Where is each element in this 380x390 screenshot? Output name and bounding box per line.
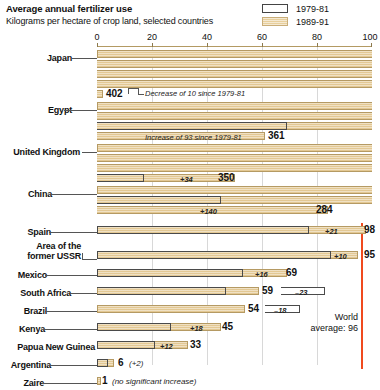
- bar-ussr-1979-81: [97, 251, 331, 259]
- row-label-united-kingdom: United Kingdom: [13, 147, 80, 157]
- value-china: 284: [316, 204, 333, 215]
- row-papua-new-guinea: Papua New Guinea +12 33: [0, 340, 380, 356]
- row-egypt: Egypt Increase of 93 since 1979-81 361: [0, 99, 380, 139]
- bar-egypt-1989-91-seg2: [97, 112, 372, 120]
- delta-south-africa: –23: [295, 288, 308, 297]
- legend-item-1989-91: 1989-91: [262, 15, 374, 28]
- row-label-south-africa: South Africa: [20, 288, 71, 298]
- plot-area: World average: 96 Japan 402 Decrease of …: [0, 47, 380, 377]
- row-label-ussr-line1: Area of the: [36, 241, 81, 251]
- row-argentina: Argentina 6 (+2): [0, 358, 380, 374]
- value-kenya: 45: [222, 321, 233, 332]
- row-south-africa: South Africa 59 –23: [0, 286, 380, 302]
- value-papua-new-guinea: 33: [190, 339, 201, 350]
- bar-mexico-1979-81: [97, 269, 243, 277]
- bar-egypt-1989-91-seg1: [97, 102, 372, 110]
- row-label-mexico: Mexico: [18, 270, 47, 280]
- legend: 1979-81 1989-91: [262, 2, 374, 28]
- note-japan: Decrease of 10 since 1979-81: [145, 89, 245, 98]
- row-label-papua-new-guinea: Papua New Guinea: [17, 342, 95, 352]
- x-tick-label-100: 100: [362, 32, 377, 42]
- x-tick-label-80: 80: [312, 32, 322, 42]
- legend-item-1979-81: 1979-81: [262, 2, 374, 15]
- note-zaire: (no significant increase): [112, 377, 196, 386]
- bar-argentina-1979-81: [97, 359, 108, 367]
- row-label-zaire: Zaire: [23, 378, 44, 388]
- row-united-kingdom: United Kingdom +34 350: [0, 141, 380, 181]
- bar-south-africa-1979-81-part: [97, 287, 226, 295]
- row-label-china: China: [28, 189, 52, 199]
- bar-png-1979-81: [97, 341, 155, 349]
- bar-japan-1989-91-seg2: [97, 60, 372, 68]
- row-label-brazil: Brazil: [24, 306, 47, 316]
- row-label-ussr-line2: former USSR: [27, 251, 81, 261]
- row-area-of-the-former-ussr: Area of the former USSR +10 95: [0, 243, 380, 267]
- value-egypt: 361: [268, 130, 285, 141]
- delta-ussr: +10: [334, 252, 347, 261]
- legend-swatch-filled-icon: [262, 17, 288, 26]
- delta-china: +140: [200, 207, 217, 216]
- x-tick-label-20: 20: [147, 32, 157, 42]
- value-south-africa: 59: [262, 285, 273, 296]
- row-zaire: Zaire 1 (no significant increase): [0, 376, 380, 390]
- x-tick-label-60: 60: [257, 32, 267, 42]
- row-mexico: Mexico +16 69: [0, 268, 380, 284]
- row-label-japan: Japan: [47, 53, 72, 63]
- row-japan: Japan 402 Decrease of 10 since 1979-81: [0, 47, 380, 97]
- bar-japan-1989-91-seg4: [97, 80, 372, 88]
- legend-swatch-outline-icon: [262, 4, 288, 13]
- delta-brazil: –18: [274, 306, 287, 315]
- value-spain: 98: [364, 224, 375, 235]
- value-brazil: 54: [248, 303, 259, 314]
- bar-china-1989-91-seg1: [97, 186, 372, 194]
- bar-japan-1989-91-seg1: [97, 50, 372, 58]
- row-kenya: Kenya +18 45: [0, 322, 380, 338]
- row-spain: Spain +21 98: [0, 225, 380, 241]
- bar-uk-1989-91-seg2: [97, 154, 372, 162]
- value-mexico: 69: [286, 267, 297, 278]
- x-tick-label-40: 40: [202, 32, 212, 42]
- bar-egypt-1979-81: [97, 122, 287, 130]
- bar-brazil-1989-91: [97, 305, 245, 313]
- bar-japan-1989-91-seg3: [97, 70, 372, 78]
- bar-uk-1979-81: [97, 174, 144, 182]
- value-japan: 402: [106, 88, 123, 99]
- x-tick-label-0: 0: [94, 32, 99, 42]
- chart-subtitle: Kilograms per hectare of crop land, sele…: [6, 16, 213, 26]
- value-argentina: 6: [118, 357, 124, 368]
- row-label-spain: Spain: [27, 227, 51, 237]
- legend-label-1989-91: 1989-91: [296, 17, 329, 27]
- bar-uk-1989-91-seg3: [97, 164, 372, 172]
- value-ussr: 95: [364, 249, 375, 260]
- row-label-kenya: Kenya: [19, 324, 45, 334]
- value-united-kingdom: 350: [218, 172, 235, 183]
- chart-title: Average annual fertilizer use: [6, 3, 132, 14]
- value-zaire: 1: [102, 375, 108, 386]
- delta-spain: +21: [325, 227, 338, 236]
- row-label-argentina: Argentina: [11, 360, 51, 370]
- row-brazil: Brazil 54 –18: [0, 304, 380, 320]
- bar-kenya-1979-81: [97, 323, 171, 331]
- delta-argentina: (+2): [129, 359, 143, 368]
- bar-uk-1989-91-seg1: [97, 144, 372, 152]
- delta-papua-new-guinea: +12: [160, 342, 173, 351]
- x-axis-tick-labels: 0 20 40 60 80 100: [0, 32, 380, 44]
- bar-spain-1979-81: [97, 226, 309, 234]
- legend-label-1979-81: 1979-81: [296, 4, 329, 14]
- bar-zaire-1989-91: [97, 377, 101, 385]
- bar-china-1979-81: [97, 196, 221, 204]
- row-china: China +140 284: [0, 183, 380, 223]
- delta-kenya: +18: [190, 324, 203, 333]
- delta-mexico: +16: [255, 270, 268, 279]
- bar-japan-1989-91-seg5: [97, 90, 103, 98]
